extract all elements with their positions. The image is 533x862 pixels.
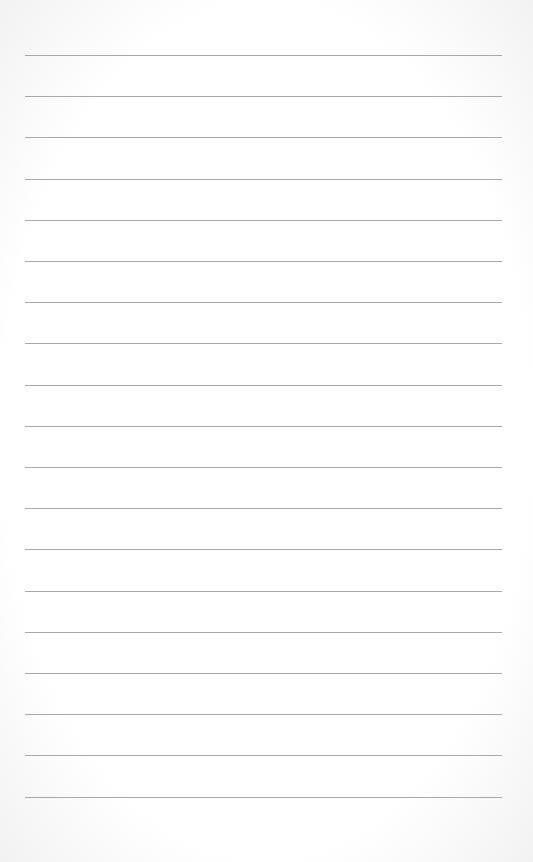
- ruled-line: [25, 137, 502, 138]
- ruled-line: [25, 343, 502, 344]
- ruled-line: [25, 302, 502, 303]
- ruled-line: [25, 55, 502, 56]
- ruled-line: [25, 261, 502, 262]
- ruled-line: [25, 673, 502, 674]
- ruled-line: [25, 714, 502, 715]
- ruled-line: [25, 220, 502, 221]
- ruled-line: [25, 797, 502, 798]
- ruled-line: [25, 385, 502, 386]
- ruled-line: [25, 508, 502, 509]
- ruled-line: [25, 467, 502, 468]
- ruled-line: [25, 591, 502, 592]
- ruled-line: [25, 632, 502, 633]
- ruled-line: [25, 549, 502, 550]
- ruled-line: [25, 426, 502, 427]
- lined-paper-page: [0, 0, 533, 862]
- ruled-line: [25, 179, 502, 180]
- ruled-line: [25, 96, 502, 97]
- ruled-line: [25, 755, 502, 756]
